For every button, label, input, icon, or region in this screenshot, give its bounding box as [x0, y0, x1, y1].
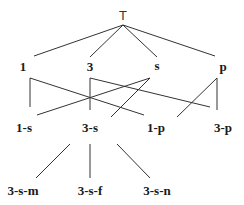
- node-s: s: [154, 59, 159, 72]
- edge-top-1: [34, 25, 123, 56]
- node-1: 1: [20, 60, 27, 73]
- node-3-s-f: 3-s-f: [78, 184, 103, 197]
- edge-3s-3sn: [117, 144, 150, 178]
- edge-top-s: [123, 25, 157, 57]
- node-3-p: 3-p: [214, 121, 232, 134]
- node-1-s: 1-s: [16, 121, 32, 134]
- node-p: p: [219, 60, 226, 73]
- edge-s-3s: [111, 78, 150, 117]
- edge-3s-3sm: [36, 144, 70, 178]
- node-1-p: 1-p: [147, 121, 165, 134]
- edge-s-1s: [37, 78, 150, 115]
- node-3-s-m: 3-s-m: [7, 184, 38, 197]
- edge-top-p: [123, 25, 215, 56]
- node-3: 3: [87, 60, 94, 73]
- edge-p-1p: [177, 78, 217, 117]
- node-3-s-n: 3-s-n: [143, 184, 170, 197]
- lattice-edges: [0, 0, 244, 205]
- edge-top-3: [90, 25, 123, 57]
- edge-1-1p: [30, 78, 144, 115]
- node-top: T: [119, 10, 126, 22]
- node-3-s: 3-s: [82, 121, 98, 134]
